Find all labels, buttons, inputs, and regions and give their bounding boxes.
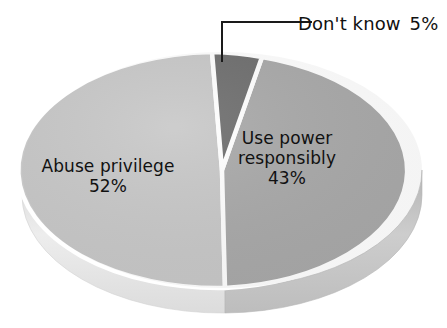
- slice-label-dont-know-value: 5%: [410, 13, 439, 34]
- slice-label-use-power-line2: responsibly: [228, 148, 346, 168]
- slice-label-dont-know: Don't know5%: [298, 14, 438, 34]
- pie-chart: Abuse privilege 52% Use power responsibl…: [0, 0, 447, 328]
- slice-label-abuse-privilege-name: Abuse privilege: [28, 156, 188, 176]
- slice-label-abuse-privilege: Abuse privilege 52%: [28, 156, 188, 196]
- slice-label-abuse-privilege-value: 52%: [28, 176, 188, 196]
- slice-label-use-power-responsibly: Use power responsibly 43%: [228, 128, 346, 188]
- slice-label-use-power-line1: Use power: [228, 128, 346, 148]
- slice-label-use-power-value: 43%: [228, 168, 346, 188]
- slice-label-dont-know-name: Don't know: [298, 13, 401, 34]
